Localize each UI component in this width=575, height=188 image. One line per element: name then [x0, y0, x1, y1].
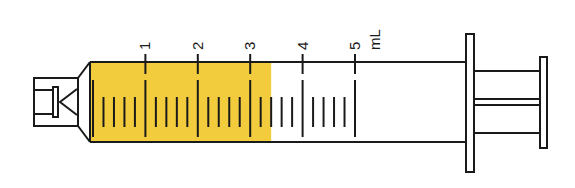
plunger-thumb-rest [540, 57, 547, 148]
scale-label: 4 [294, 42, 311, 50]
scale-label: 1 [136, 42, 153, 50]
plunger-rod [474, 71, 540, 133]
syringe-diagram: 12345 mL [0, 0, 575, 188]
liquid-fill [90, 62, 271, 142]
scale-labels: 12345 [136, 42, 363, 50]
unit-label: mL [366, 29, 383, 50]
scale-label: 5 [346, 42, 363, 50]
scale-label: 2 [189, 42, 206, 50]
syringe-tip [34, 62, 90, 142]
scale-label: 3 [241, 42, 258, 50]
finger-flange [466, 34, 474, 172]
